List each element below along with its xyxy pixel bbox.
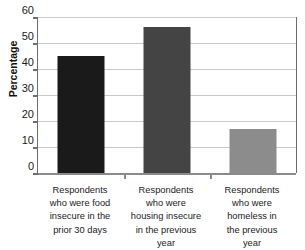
bar-slot [124, 17, 210, 173]
x-category-label-line: who were [209, 197, 295, 210]
x-axis-category-labels: Respondentswho were foodinsecure in thep… [37, 184, 295, 244]
y-tick-label: 30 [14, 83, 34, 94]
x-category-label-line: who were [123, 197, 209, 210]
y-tick-label: 10 [14, 135, 34, 146]
x-axis-tick-mark [210, 173, 212, 179]
x-category-label-line: homeless in [209, 210, 295, 223]
x-category-label-line: insecure in the [37, 210, 123, 223]
x-axis-tick-mark [124, 173, 126, 179]
y-tick-label: 20 [14, 109, 34, 120]
y-tick-mark [33, 173, 38, 175]
x-category-label-line: year [209, 237, 295, 250]
axis-baseline [38, 173, 296, 175]
y-tick-label: 0 [14, 161, 34, 172]
bar[interactable] [144, 27, 191, 173]
x-category-label: Respondentswho were foodinsecure in thep… [37, 184, 123, 237]
bar-slot [38, 17, 124, 173]
bar-series [38, 17, 296, 173]
x-category-label-line: Respondents [209, 184, 295, 197]
x-category-label-line: Respondents [123, 184, 209, 197]
bar-slot [210, 17, 296, 173]
x-category-label: Respondentswho werehousing insecurein th… [123, 184, 209, 250]
x-category-label-line: the previous [209, 224, 295, 237]
y-tick-label: 40 [14, 57, 34, 68]
y-axis-tick-labels: 6050403020100 [14, 11, 34, 174]
x-category-label-line: in the previous [123, 224, 209, 237]
y-tick-label: 50 [14, 31, 34, 42]
x-category-label-line: prior 30 days [37, 224, 123, 237]
x-category-label: Respondentswho werehomeless inthe previo… [209, 184, 295, 250]
bar[interactable] [58, 56, 105, 173]
y-tick-label: 60 [14, 5, 34, 16]
plot-area [37, 17, 297, 173]
x-category-label-line: year [123, 237, 209, 250]
x-category-label-line: Respondents [37, 184, 123, 197]
x-category-label-line: who were food [37, 197, 123, 210]
x-category-label-line: housing insecure [123, 210, 209, 223]
bar[interactable] [230, 129, 277, 173]
